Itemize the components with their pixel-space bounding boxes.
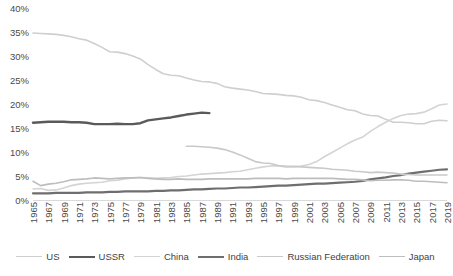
x-axis-tick-label: 2019 (442, 202, 453, 223)
x-axis-tick-label: 1995 (258, 202, 269, 223)
y-axis-tick-label: 40% (10, 3, 29, 14)
x-axis-tick-label: 2003 (319, 202, 330, 223)
y-axis-tick-label: 15% (10, 123, 29, 134)
x-axis-tick-label: 1975 (105, 202, 116, 223)
y-axis-tick-label: 35% (10, 27, 29, 38)
legend-label: India (228, 251, 249, 262)
chart-legend: USUSSRChinaIndiaRussian FederationJapan (0, 251, 451, 262)
series-line (33, 177, 447, 185)
x-axis-tick-label: 1991 (227, 202, 238, 223)
x-axis-tick-label: 1997 (273, 202, 284, 223)
x-axis-tick-label: 1979 (135, 202, 146, 223)
legend-swatch-icon (198, 256, 224, 258)
x-axis-tick-label: 1965 (28, 202, 39, 223)
x-axis-line (33, 200, 447, 201)
x-axis-tick-label: 2013 (396, 202, 407, 223)
x-axis-tick-label: 2017 (427, 202, 438, 223)
x-axis-tick-label: 1969 (59, 202, 70, 223)
legend-item[interactable]: Japan (379, 251, 435, 262)
x-axis-tick-label: 2005 (335, 202, 346, 223)
legend-label: Japan (409, 251, 435, 262)
x-axis-tick-label: 2009 (365, 202, 376, 223)
legend-swatch-icon (134, 256, 160, 257)
x-axis-tick-label: 1977 (120, 202, 131, 223)
legend-item[interactable]: USSR (69, 251, 125, 262)
series-line (186, 146, 447, 175)
y-axis: 0%5%10%15%20%25%30%35%40% (0, 0, 31, 200)
legend-item[interactable]: China (134, 251, 189, 262)
x-axis-tick-label: 2001 (304, 202, 315, 223)
series-line (33, 33, 447, 124)
plot-area (33, 8, 447, 200)
x-axis-tick-label: 1971 (74, 202, 85, 223)
x-axis-tick-label: 1989 (212, 202, 223, 223)
x-axis-tick-label: 1983 (166, 202, 177, 223)
legend-item[interactable]: India (198, 251, 249, 262)
x-axis-tick-label: 1973 (89, 202, 100, 223)
x-axis-tick-label: 1981 (151, 202, 162, 223)
legend-swatch-icon (257, 256, 283, 257)
legend-label: Russian Federation (287, 251, 369, 262)
y-axis-tick-label: 5% (15, 171, 29, 182)
x-axis-tick-label: 1987 (197, 202, 208, 223)
x-axis-tick-label: 1999 (289, 202, 300, 223)
legend-label: USSR (99, 251, 125, 262)
legend-swatch-icon (16, 256, 42, 257)
y-axis-tick-label: 30% (10, 51, 29, 62)
x-axis-tick-label: 1985 (181, 202, 192, 223)
series-line (33, 113, 209, 125)
legend-item[interactable]: Russian Federation (257, 251, 369, 262)
y-axis-tick-label: 0% (15, 195, 29, 206)
x-axis-tick-label: 1967 (43, 202, 54, 223)
legend-swatch-icon (69, 256, 95, 258)
legend-swatch-icon (379, 256, 405, 257)
y-axis-tick-label: 10% (10, 147, 29, 158)
x-axis-tick-label: 2011 (381, 202, 392, 222)
y-axis-tick-label: 20% (10, 99, 29, 110)
x-axis: 1965196719691971197319751977197919811983… (33, 202, 447, 246)
series-layer (33, 8, 447, 200)
x-axis-tick-label: 2007 (350, 202, 361, 223)
x-axis-tick-label: 2015 (411, 202, 422, 223)
legend-label: US (46, 251, 59, 262)
legend-item[interactable]: US (16, 251, 59, 262)
x-axis-tick-label: 1993 (243, 202, 254, 223)
y-axis-tick-label: 25% (10, 75, 29, 86)
legend-label: China (164, 251, 189, 262)
